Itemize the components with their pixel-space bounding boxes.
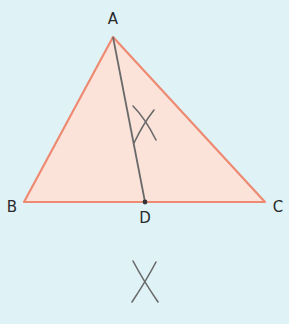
label-d: D	[139, 209, 151, 227]
point-d	[143, 200, 148, 205]
label-c: C	[273, 198, 283, 216]
geometry-diagram: A B C D	[0, 0, 289, 324]
label-b: B	[7, 198, 17, 216]
arc-intersection-lower	[132, 261, 158, 302]
label-a: A	[108, 10, 119, 28]
